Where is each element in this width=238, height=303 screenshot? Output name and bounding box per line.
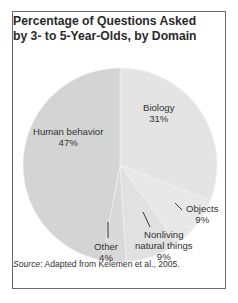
source-prefix: Source xyxy=(13,259,40,269)
label-nonliving-name1: Nonliving xyxy=(135,229,193,240)
label-biology: Biology 31% xyxy=(143,102,174,124)
label-human-name: Human behavior xyxy=(33,126,103,137)
pie-chart xyxy=(0,0,238,303)
label-human-pct: 47% xyxy=(33,137,103,148)
label-human-behavior: Human behavior 47% xyxy=(33,126,103,148)
label-nonliving: Nonliving natural things 9% xyxy=(135,229,193,262)
chart-source: Source: Adapted from Kelemen et al., 200… xyxy=(13,259,180,269)
label-objects: Objects 9% xyxy=(186,203,219,225)
pie-slice-human-behavior xyxy=(23,68,120,260)
label-biology-name: Biology xyxy=(143,102,174,113)
source-text: : Adapted from Kelemen et al., 2005. xyxy=(40,259,180,269)
label-biology-pct: 31% xyxy=(143,113,174,124)
label-other-name: Other xyxy=(94,241,118,252)
label-nonliving-name2: natural things xyxy=(135,240,193,251)
label-objects-name: Objects xyxy=(186,203,219,214)
label-objects-pct: 9% xyxy=(186,214,219,225)
